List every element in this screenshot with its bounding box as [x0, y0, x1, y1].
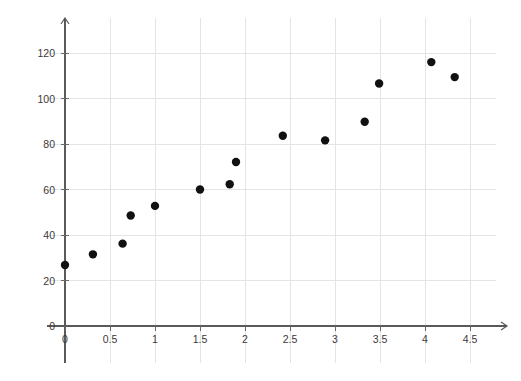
- axes: [47, 18, 507, 363]
- x-tick-label: 4: [422, 333, 428, 345]
- x-tick-label: 3.5: [373, 333, 388, 345]
- data-point: [61, 261, 69, 269]
- y-tick-label: 80: [43, 138, 55, 150]
- x-tick-label: 4.5: [463, 333, 478, 345]
- y-tick-label: 100: [37, 93, 55, 105]
- x-tick-label: 1: [152, 333, 158, 345]
- data-point: [226, 180, 234, 188]
- x-tick-label: 0.5: [103, 333, 118, 345]
- y-tick-label: 0: [49, 320, 55, 332]
- y-axis-tick-labels: 020406080100120: [37, 47, 55, 332]
- data-point: [89, 250, 97, 258]
- y-tick-label: 20: [43, 275, 55, 287]
- data-point: [196, 185, 204, 193]
- data-point: [321, 136, 329, 144]
- data-points: [61, 58, 459, 269]
- x-axis-tick-labels: 00.511.522.533.544.5: [62, 333, 477, 345]
- data-point: [127, 211, 135, 219]
- data-point: [118, 239, 126, 247]
- x-tick-label: 0: [62, 333, 68, 345]
- data-point: [151, 202, 159, 210]
- data-point: [279, 132, 287, 140]
- data-point: [361, 118, 369, 126]
- vertical-gridlines: [65, 18, 470, 363]
- x-tick-label: 2.5: [283, 333, 298, 345]
- data-point: [375, 79, 383, 87]
- tick-marks: [61, 53, 470, 331]
- data-point: [451, 73, 459, 81]
- data-point: [427, 58, 435, 66]
- scatter-plot-figure: 00.511.522.533.544.5 020406080100120: [0, 0, 521, 381]
- y-tick-label: 40: [43, 229, 55, 241]
- plot-area: 00.511.522.533.544.5 020406080100120: [0, 0, 521, 381]
- x-tick-label: 2: [242, 333, 248, 345]
- y-tick-label: 120: [37, 47, 55, 59]
- horizontal-gridlines: [47, 53, 496, 281]
- y-tick-label: 60: [43, 184, 55, 196]
- x-tick-label: 1.5: [193, 333, 208, 345]
- x-tick-label: 3: [332, 333, 338, 345]
- data-point: [232, 158, 240, 166]
